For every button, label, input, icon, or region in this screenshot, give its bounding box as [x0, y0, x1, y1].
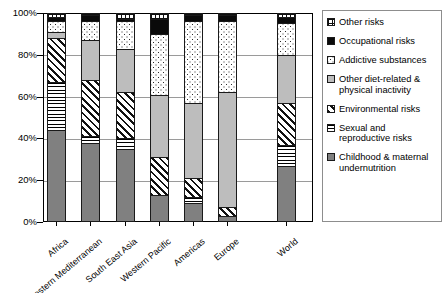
x-tick-mark — [227, 222, 228, 226]
legend-item[interactable]: Addictive substances — [327, 55, 438, 66]
bar-segment — [218, 207, 237, 215]
bar-africa[interactable] — [47, 13, 66, 222]
legend-swatch-icon — [327, 124, 335, 132]
bar-segment — [184, 203, 203, 222]
legend-swatch-icon — [327, 56, 335, 64]
y-tick-label: 20% — [0, 175, 37, 185]
x-tick-mark — [286, 222, 287, 226]
legend-item[interactable]: Other risks — [327, 17, 438, 28]
legend-label: Occupational risks — [339, 36, 415, 47]
legend-swatch-icon — [327, 18, 335, 26]
bar-segment — [81, 13, 100, 15]
bar-segment — [277, 103, 296, 145]
bar-segment — [277, 23, 296, 54]
y-tick-mark — [37, 222, 43, 223]
bar-segment — [81, 143, 100, 222]
legend-item[interactable]: Occupational risks — [327, 36, 438, 47]
bar-eastern-mediterranean[interactable] — [81, 13, 100, 222]
bar-segment — [47, 17, 66, 21]
y-tick-label: 80% — [0, 50, 37, 60]
legend-item[interactable]: Other diet-related & physical inactivity — [327, 74, 438, 95]
bar-segment — [116, 92, 135, 138]
bar-segment — [277, 17, 296, 23]
bar-segment — [47, 38, 66, 82]
stacked-bar-chart: 0%20%40%60%80%100% AfricaEastern Mediter… — [0, 0, 448, 293]
bar-segment — [150, 34, 169, 95]
bar-segment — [277, 166, 296, 222]
bar-segment — [184, 21, 203, 103]
bar-segment — [150, 157, 169, 195]
bar-segment — [184, 103, 203, 178]
legend-label: Addictive substances — [339, 55, 426, 66]
x-tick-mark — [56, 222, 57, 226]
x-tick-mark — [90, 222, 91, 226]
x-tick-mark — [125, 222, 126, 226]
bar-western-pacific[interactable] — [150, 13, 169, 222]
x-tick-mark — [193, 222, 194, 226]
bar-segment — [116, 21, 135, 48]
bar-segment — [116, 49, 135, 93]
y-tick-label: 0% — [0, 217, 37, 227]
bars-layer — [43, 13, 313, 222]
bar-segment — [116, 149, 135, 222]
legend-item[interactable]: Childhood & maternal undernutrition — [327, 152, 438, 173]
bar-segment — [150, 95, 169, 158]
bar-segment — [150, 13, 169, 19]
bar-segment — [218, 21, 237, 92]
y-tick-label: 60% — [0, 92, 37, 102]
bar-segment — [184, 15, 203, 21]
x-tick-mark — [159, 222, 160, 226]
bar-segment — [81, 136, 100, 142]
legend-label: Environmental risks — [339, 104, 420, 115]
legend-swatch-icon — [327, 153, 335, 161]
bar-world[interactable] — [277, 13, 296, 222]
bar-segment — [277, 13, 296, 17]
y-tick-label: 100% — [0, 8, 37, 18]
bar-segment — [218, 92, 237, 207]
bar-segment — [184, 197, 203, 203]
legend-swatch-icon — [327, 105, 335, 113]
bar-segment — [184, 13, 203, 15]
bar-segment — [218, 15, 237, 21]
chart-legend: Other risksOccupational risksAddictive s… — [322, 10, 442, 222]
legend-item[interactable]: Sexual and reproductive risks — [327, 123, 438, 144]
legend-label: Other diet-related & physical inactivity — [339, 74, 438, 95]
bar-europe[interactable] — [218, 13, 237, 222]
bar-segment — [47, 130, 66, 222]
legend-label: Other risks — [339, 17, 384, 28]
bar-segment — [116, 13, 135, 19]
legend-label: Sexual and reproductive risks — [339, 123, 438, 144]
bar-segment — [47, 13, 66, 17]
x-axis-label: Africa — [0, 237, 70, 293]
bar-segment — [150, 19, 169, 34]
bar-segment — [116, 138, 135, 148]
bar-segment — [81, 21, 100, 40]
bar-segment — [81, 40, 100, 80]
bar-segment — [47, 32, 66, 38]
y-tick-label: 40% — [0, 133, 37, 143]
legend-label: Childhood & maternal undernutrition — [339, 152, 438, 173]
legend-swatch-icon — [327, 75, 335, 83]
bar-segment — [47, 21, 66, 31]
bar-segment — [81, 80, 100, 136]
bar-segment — [116, 19, 135, 21]
bar-segment — [277, 145, 296, 166]
bar-segment — [184, 178, 203, 197]
bar-segment — [81, 15, 100, 21]
bar-segment — [47, 82, 66, 130]
bar-south-east-asia[interactable] — [116, 13, 135, 222]
bar-segment — [277, 55, 296, 103]
bar-segment — [218, 13, 237, 15]
bar-segment — [150, 195, 169, 222]
legend-item[interactable]: Environmental risks — [327, 104, 438, 115]
bar-americas[interactable] — [184, 13, 203, 222]
legend-swatch-icon — [327, 37, 335, 45]
